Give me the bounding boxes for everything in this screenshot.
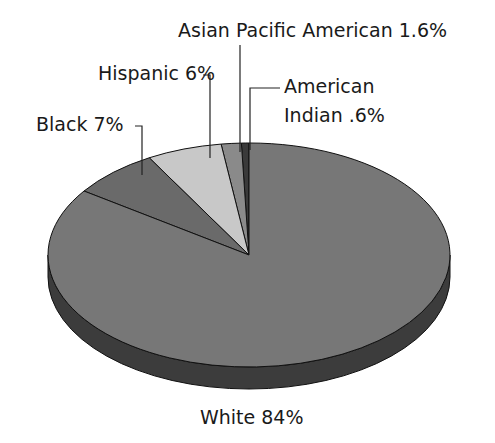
label-hispanic: Hispanic 6% xyxy=(98,62,215,84)
label-american-indian: American xyxy=(284,75,374,97)
label-american-indian: Indian .6% xyxy=(284,104,385,126)
label-black: Black 7% xyxy=(36,113,124,135)
label-white: White 84% xyxy=(200,406,304,428)
label-asian-pacific-american: Asian Pacific American 1.6% xyxy=(178,19,447,41)
pie-chart: AmericanIndian .6%Asian Pacific American… xyxy=(0,0,495,443)
leader-line-american-indian xyxy=(250,88,280,150)
